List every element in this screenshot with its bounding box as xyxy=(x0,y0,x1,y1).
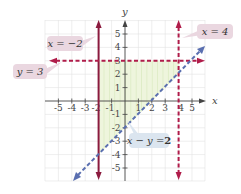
svg-text:-5: -5 xyxy=(112,163,121,173)
callout-label: x = 4 xyxy=(202,26,229,37)
svg-text:2: 2 xyxy=(115,69,121,79)
callout-x-minus-y-equals-2: x − y = 2 xyxy=(129,133,169,148)
svg-text:-3: -3 xyxy=(112,136,121,146)
callout-y-equals-3: y = 3 xyxy=(13,64,47,79)
svg-text:5: 5 xyxy=(115,29,121,39)
svg-text:1: 1 xyxy=(115,83,121,93)
svg-text:-4: -4 xyxy=(112,150,121,160)
callout-label: x = −2 xyxy=(47,38,82,49)
x-axis-label: x xyxy=(212,95,218,106)
callout-label: y = 3 xyxy=(17,66,44,77)
svg-text:1: 1 xyxy=(136,103,142,113)
svg-text:-2: -2 xyxy=(112,123,121,133)
svg-text:2: 2 xyxy=(149,103,155,113)
callout-x-equals-neg2: x = −2 xyxy=(47,36,83,51)
svg-text:-3: -3 xyxy=(81,103,90,113)
callout-label: x − y = xyxy=(127,135,165,146)
svg-text:-4: -4 xyxy=(67,103,76,113)
svg-text:4: 4 xyxy=(115,42,121,52)
y-axis-label: y xyxy=(121,6,128,17)
svg-text:-5: -5 xyxy=(54,103,63,113)
callout-value: 2 xyxy=(164,135,171,146)
svg-text:-1: -1 xyxy=(112,109,121,119)
svg-text:5: 5 xyxy=(189,103,195,113)
callout-x-equals-4: x = 4 xyxy=(197,24,233,39)
svg-text:3: 3 xyxy=(162,103,168,113)
